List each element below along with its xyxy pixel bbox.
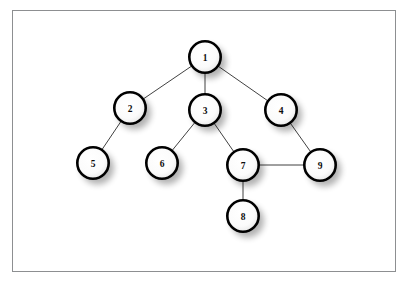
graph-node-8[interactable]: 8: [227, 200, 258, 231]
graph-node-1[interactable]: 1: [189, 41, 220, 72]
graph-edge-1-4: [218, 66, 268, 101]
graph-edge-3-6: [172, 122, 195, 150]
figure-root: 123456789: [0, 0, 409, 282]
graph-edge-1-2: [143, 66, 192, 99]
edge-layer: [102, 66, 311, 200]
graph-node-label-2: 2: [128, 104, 133, 114]
graph-node-label-5: 5: [91, 159, 96, 169]
graph-node-2[interactable]: 2: [114, 92, 145, 123]
graph-node-4[interactable]: 4: [265, 94, 296, 125]
node-layer: 123456789: [77, 41, 335, 231]
graph-node-3[interactable]: 3: [189, 94, 220, 125]
graph-edge-2-5: [102, 121, 121, 150]
graph-node-label-3: 3: [203, 106, 208, 116]
node-shadow-layer: [81, 46, 341, 238]
graph-node-label-4: 4: [279, 106, 284, 116]
graph-node-label-1: 1: [203, 53, 208, 63]
graph-node-label-6: 6: [160, 159, 165, 169]
graph-node-label-8: 8: [241, 212, 246, 222]
graph-node-5[interactable]: 5: [77, 147, 108, 178]
graph-node-7[interactable]: 7: [227, 149, 258, 180]
graph-node-9[interactable]: 9: [304, 149, 335, 180]
graph-node-6[interactable]: 6: [146, 147, 177, 178]
graph-canvas: 123456789: [0, 0, 409, 282]
graph-node-label-7: 7: [241, 161, 246, 171]
graph-node-label-9: 9: [318, 161, 323, 171]
